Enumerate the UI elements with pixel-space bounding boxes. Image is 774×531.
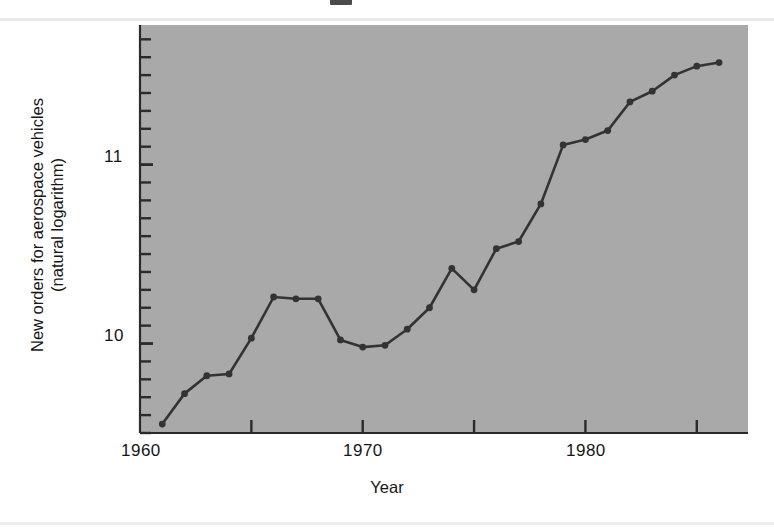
- data-point: [537, 201, 544, 208]
- data-point: [649, 88, 656, 95]
- y-axis-title-line2: (natural logarithm): [47, 75, 67, 375]
- x-tick-label-1970: 1970: [343, 441, 383, 461]
- data-point: [226, 371, 233, 378]
- data-point: [582, 136, 589, 143]
- data-point: [248, 335, 255, 342]
- x-axis-title: Year: [0, 478, 774, 497]
- y-axis-ticks: [140, 39, 153, 433]
- data-point: [382, 342, 389, 349]
- y-axis-title-line1: New orders for aerospace vehicles: [27, 75, 47, 375]
- x-axis-ticks: [251, 420, 696, 433]
- data-point: [203, 372, 210, 379]
- data-point-markers: [159, 59, 723, 427]
- data-point: [426, 304, 433, 311]
- data-point: [627, 99, 634, 106]
- chart-svg: [0, 0, 774, 531]
- x-tick-label-1980: 1980: [566, 441, 606, 461]
- data-point: [337, 337, 344, 344]
- data-point: [315, 295, 322, 302]
- data-point: [181, 390, 188, 397]
- data-point: [448, 265, 455, 272]
- data-point: [693, 63, 700, 70]
- data-point: [159, 421, 166, 428]
- data-point: [560, 141, 567, 148]
- y-tick-label-11: 11: [104, 147, 123, 167]
- figure-container: 11 10 1960 1970 1980 New orders for aero…: [0, 0, 774, 531]
- y-tick-label-10: 10: [104, 326, 124, 346]
- data-point: [293, 295, 300, 302]
- data-point: [604, 127, 611, 134]
- data-point: [671, 72, 678, 79]
- x-tick-label-1960: 1960: [121, 441, 161, 461]
- y-axis-title: New orders for aerospace vehicles (natur…: [27, 75, 67, 375]
- data-point: [359, 344, 366, 351]
- data-point: [716, 59, 723, 66]
- data-series-line: [162, 63, 719, 424]
- data-point: [493, 245, 500, 252]
- data-point: [471, 286, 478, 293]
- data-point: [270, 294, 277, 301]
- data-point: [404, 326, 411, 333]
- data-point: [515, 238, 522, 245]
